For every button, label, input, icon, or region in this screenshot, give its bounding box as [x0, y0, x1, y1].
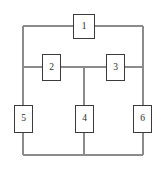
block-diagram: 1 2 3 4 5 6: [0, 0, 166, 174]
node-label-5: 5: [21, 114, 26, 124]
node-box-1[interactable]: 1: [73, 14, 95, 39]
node-label-2: 2: [49, 63, 54, 73]
node-label-1: 1: [82, 22, 87, 32]
node-box-5[interactable]: 5: [14, 105, 33, 133]
node-box-3[interactable]: 3: [106, 54, 125, 81]
node-label-4: 4: [82, 114, 87, 124]
node-box-4[interactable]: 4: [75, 105, 94, 133]
node-label-3: 3: [113, 63, 118, 73]
node-box-2[interactable]: 2: [42, 54, 61, 81]
node-label-6: 6: [140, 114, 145, 124]
node-box-6[interactable]: 6: [133, 105, 152, 133]
